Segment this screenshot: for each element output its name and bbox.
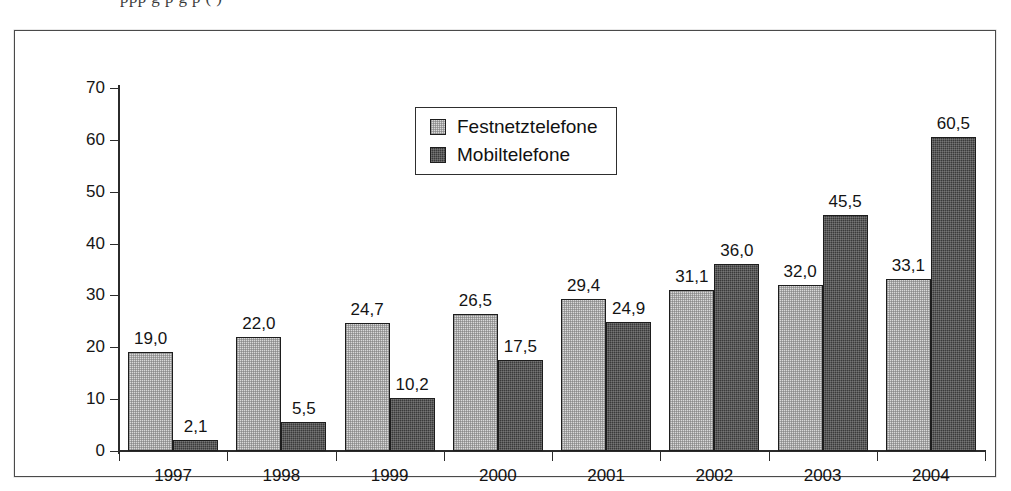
dark-gray-swatch-icon bbox=[430, 147, 446, 163]
bar-mobiltelefone-1998[interactable]: 5,5 bbox=[281, 422, 326, 451]
bar-value-label: 60,5 bbox=[937, 114, 970, 134]
bar-value-label: 17,5 bbox=[504, 337, 537, 357]
y-tick-mark bbox=[110, 347, 119, 348]
bar-value-label: 24,7 bbox=[351, 300, 384, 320]
y-tick-mark bbox=[110, 244, 119, 245]
bar-value-label: 32,0 bbox=[784, 262, 817, 282]
y-tick-label: 20 bbox=[86, 337, 105, 357]
bar-group-1997: 19,02,1 bbox=[119, 88, 227, 451]
x-axis-label-2003: 2003 bbox=[804, 466, 842, 486]
bar-festnetztelefone-2004[interactable]: 33,1 bbox=[886, 279, 931, 451]
y-tick-label: 60 bbox=[86, 130, 105, 150]
bar-value-label: 2,1 bbox=[184, 417, 208, 437]
bar-festnetztelefone-2003[interactable]: 32,0 bbox=[778, 285, 823, 451]
y-tick-mark bbox=[110, 88, 119, 89]
legend-label-festnetztelefone: Festnetztelefone bbox=[457, 116, 597, 138]
y-tick-label: 70 bbox=[86, 78, 105, 98]
bar-festnetztelefone-2000[interactable]: 26,5 bbox=[453, 314, 498, 451]
bar-festnetztelefone-1997[interactable]: 19,0 bbox=[128, 352, 173, 451]
bar-mobiltelefone-2002[interactable]: 36,0 bbox=[714, 264, 759, 451]
bar-festnetztelefone-2001[interactable]: 29,4 bbox=[561, 299, 606, 451]
bar-value-label: 29,4 bbox=[567, 276, 600, 296]
x-axis-label-1999: 1999 bbox=[371, 466, 409, 486]
bar-festnetztelefone-2002[interactable]: 31,1 bbox=[669, 290, 714, 451]
x-axis-label-1998: 1998 bbox=[262, 466, 300, 486]
bar-group-1998: 22,05,5 bbox=[227, 88, 335, 451]
x-axis-label-2000: 2000 bbox=[479, 466, 517, 486]
x-axis-label-2002: 2002 bbox=[695, 466, 733, 486]
chart-figure-frame: 010203040506070 19,02,122,05,524,710,226… bbox=[14, 30, 996, 477]
cut-off-caption-text: ppp g p g p ( ) bbox=[120, 0, 910, 2]
bar-value-label: 19,0 bbox=[134, 329, 167, 349]
y-tick-label: 30 bbox=[86, 285, 105, 305]
light-gray-swatch-icon bbox=[430, 119, 446, 135]
y-tick-mark bbox=[110, 192, 119, 193]
y-tick-mark bbox=[110, 295, 119, 296]
bar-value-label: 45,5 bbox=[829, 192, 862, 212]
bar-group-2002: 31,136,0 bbox=[660, 88, 768, 451]
bar-value-label: 31,1 bbox=[675, 267, 708, 287]
x-axis-label-2001: 2001 bbox=[587, 466, 625, 486]
bar-value-label: 26,5 bbox=[459, 291, 492, 311]
x-tick-mark bbox=[985, 452, 986, 461]
bar-mobiltelefone-2004[interactable]: 60,5 bbox=[931, 137, 976, 451]
bar-mobiltelefone-1999[interactable]: 10,2 bbox=[390, 398, 435, 451]
y-tick-mark bbox=[110, 451, 119, 452]
bar-festnetztelefone-1998[interactable]: 22,0 bbox=[236, 337, 281, 451]
legend-label-mobiltelefone: Mobiltelefone bbox=[457, 144, 570, 166]
bar-mobiltelefone-1997[interactable]: 2,1 bbox=[173, 440, 218, 451]
bar-value-label: 33,1 bbox=[892, 256, 925, 276]
chart-legend: Festnetztelefone Mobiltelefone bbox=[415, 107, 617, 175]
bar-value-label: 5,5 bbox=[292, 399, 316, 419]
y-tick-label: 40 bbox=[86, 234, 105, 254]
bar-value-label: 24,9 bbox=[612, 299, 645, 319]
bar-mobiltelefone-2001[interactable]: 24,9 bbox=[606, 322, 651, 451]
page-top-cut-text-artifact: ppp g p g p ( ) bbox=[0, 0, 1011, 10]
y-tick-label: 10 bbox=[86, 389, 105, 409]
legend-item-mobiltelefone[interactable]: Mobiltelefone bbox=[430, 141, 616, 169]
bar-value-label: 10,2 bbox=[396, 375, 429, 395]
x-axis-labels: 19971998199920002001200220032004 bbox=[119, 452, 985, 482]
bar-mobiltelefone-2003[interactable]: 45,5 bbox=[823, 215, 868, 451]
bar-group-2004: 33,160,5 bbox=[877, 88, 985, 451]
x-axis-label-2004: 2004 bbox=[912, 466, 950, 486]
y-tick-label: 0 bbox=[96, 441, 105, 461]
y-tick-label: 50 bbox=[86, 182, 105, 202]
y-tick-mark bbox=[110, 140, 119, 141]
bar-value-label: 22,0 bbox=[242, 314, 275, 334]
y-tick-mark bbox=[110, 399, 119, 400]
x-axis-label-1997: 1997 bbox=[154, 466, 192, 486]
bar-value-label: 36,0 bbox=[720, 241, 753, 261]
legend-item-festnetztelefone[interactable]: Festnetztelefone bbox=[430, 113, 616, 141]
bar-group-2003: 32,045,5 bbox=[769, 88, 877, 451]
bar-festnetztelefone-1999[interactable]: 24,7 bbox=[345, 323, 390, 451]
bar-mobiltelefone-2000[interactable]: 17,5 bbox=[498, 360, 543, 451]
